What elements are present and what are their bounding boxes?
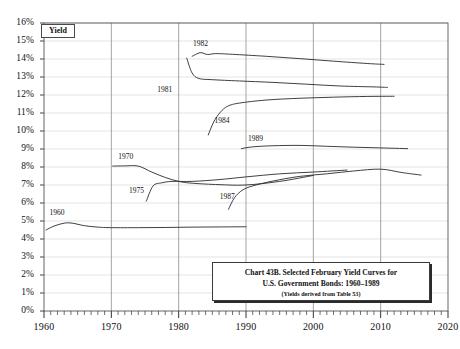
yield-axis-label-text: Yield — [49, 26, 67, 35]
y-axis-tick-label: 3% — [0, 251, 34, 261]
y-axis-tick-label: 14% — [0, 53, 34, 63]
series-label-1960: 1960 — [49, 208, 64, 217]
y-axis-tick-label: 13% — [0, 71, 34, 81]
series-line-1970 — [113, 166, 314, 186]
y-axis-tick-label: 16% — [0, 17, 34, 27]
chart-title-line-2: U.S. Government Bonds: 1960–1989 — [217, 278, 425, 289]
chart-title-note: (Yields derived from Table 53) — [217, 291, 425, 297]
x-axis-tick-label: 2000 — [290, 321, 336, 332]
series-label-1970: 1970 — [118, 152, 133, 161]
y-axis-tick-label: 1% — [0, 287, 34, 297]
y-axis-tick-label: 2% — [0, 269, 34, 279]
y-axis-tick-label: 11% — [0, 107, 34, 117]
series-line-1989 — [241, 145, 407, 148]
x-axis-tick-label: 1980 — [156, 321, 202, 332]
y-axis-tick-label: 12% — [0, 89, 34, 99]
y-axis-tick-label: 0% — [0, 305, 34, 315]
y-axis-tick-label: 9% — [0, 143, 34, 153]
y-axis-tick-label: 7% — [0, 179, 34, 189]
x-axis-tick-label: 2020 — [425, 321, 460, 332]
x-axis-tick-label: 1960 — [21, 321, 67, 332]
x-axis-tick-label: 2010 — [358, 321, 404, 332]
series-label-1975: 1975 — [129, 186, 144, 195]
x-axis-tick-label: 1970 — [88, 321, 134, 332]
series-label-1989: 1989 — [248, 134, 263, 143]
y-axis-tick-label: 15% — [0, 35, 34, 45]
y-axis-tick-label: 10% — [0, 125, 34, 135]
y-axis-tick-label: 4% — [0, 233, 34, 243]
series-label-1981: 1981 — [157, 85, 172, 94]
yield-axis-label-box: Yield — [41, 24, 75, 38]
y-axis-tick-label: 5% — [0, 215, 34, 225]
y-axis-tick-label: 6% — [0, 197, 34, 207]
chart-container: Yield Chart 43B. Selected February Yield… — [0, 0, 460, 349]
x-axis-tick-label: 1990 — [223, 321, 269, 332]
series-line-1984 — [208, 96, 394, 135]
series-line-1982 — [192, 53, 384, 65]
series-label-1982: 1982 — [193, 39, 208, 48]
y-axis-tick-label: 8% — [0, 161, 34, 171]
series-line-1960 — [46, 223, 246, 230]
series-label-1987: 1987 — [220, 192, 235, 201]
chart-title-line-1: Chart 43B. Selected February Yield Curve… — [217, 267, 425, 278]
series-label-1984: 1984 — [214, 116, 229, 125]
chart-title-box: Chart 43B. Selected February Yield Curve… — [212, 262, 430, 301]
